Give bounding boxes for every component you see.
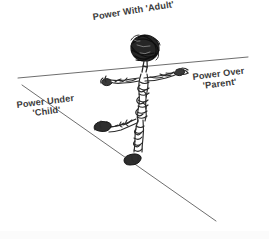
diagram-canvas: Power With 'Adult' Power Over 'Parent' P… [0,0,269,239]
figure-left-foot [94,121,111,132]
figure-head [131,35,160,61]
bottom-edge-band [0,231,269,239]
tightrope-power-diagram-artwork [0,0,269,239]
